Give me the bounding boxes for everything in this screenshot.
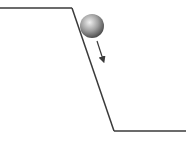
ball [80,14,104,38]
ball-on-slope-diagram [0,0,191,142]
velocity-arrow [97,41,104,61]
